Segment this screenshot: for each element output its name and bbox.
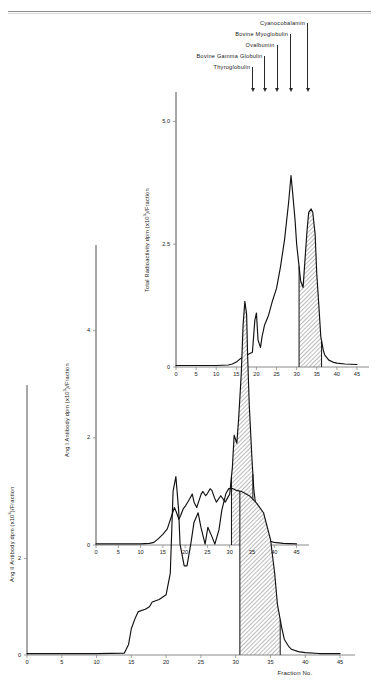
x-tick-label: 35 [262,659,278,665]
x-tick-label: 5 [188,371,204,377]
x-tick-label: 25 [199,549,215,555]
x-tick-label: 15 [123,659,139,665]
marker-label: Cyanocobalamin [157,20,305,26]
x-tick-label: 30 [289,371,305,377]
x-tick-label: 20 [248,371,264,377]
y-tick-label: 2 [70,434,90,440]
x-tick-label: 15 [228,371,244,377]
x-tick-label: 20 [177,549,193,555]
x-tick-label: 10 [133,549,149,555]
running-header [60,0,360,9]
x-tick-label: 45 [332,659,348,665]
y-tick-label: 2.5 [150,241,170,247]
chart-panel-ang-ii-antibody [27,385,347,655]
marker-label: Bovine Myoglobulin [140,31,288,37]
x-tick-label: 40 [266,549,282,555]
x-tick-label: 5 [110,549,126,555]
x-tick-label: 0 [19,659,35,665]
x-tick-label: 35 [309,371,325,377]
x-tick-label: 0 [88,549,104,555]
x-tick-label: 25 [193,659,209,665]
plot-svg [27,385,367,675]
y-tick-label: 0 [70,542,90,548]
y-tick-label: 0 [150,364,170,370]
x-tick-label: 15 [155,549,171,555]
x-tick-label: 35 [244,549,260,555]
page-rule-top [8,11,371,12]
marker-line [252,67,253,89]
x-tick-label: 40 [297,659,313,665]
marker-label: Bovine Gamma Globulin [114,53,262,59]
x-tick-label: 5 [54,659,70,665]
marker-line [290,34,291,89]
x-tick-label: 30 [222,549,238,555]
figure-canvas: ThyroglobulinBovine Gamma GlobulinOvalbu… [0,0,379,693]
x-tick-label: 20 [158,659,174,665]
y-tick-label: 4 [70,327,90,333]
y-tick-label: 0 [1,652,21,658]
elution-trace [27,477,340,654]
x-tick-label: 0 [168,371,184,377]
x-tick-label: 45 [349,371,365,377]
marker-line [307,23,308,89]
marker-line [277,45,278,89]
x-axis-label: Fraction No. [277,670,312,676]
shaded-fraction-pool [27,477,340,655]
x-tick-label: 10 [208,371,224,377]
marker-protein-annotations: ThyroglobulinBovine Gamma GlobulinOvalbu… [0,14,379,94]
y-axis-label: Total Radioactivity dpm (x103)/Fraction [142,188,150,292]
y-axis-label: Ang I Antibody dpm (x103)/Fraction [62,363,70,457]
x-tick-label: 45 [289,549,305,555]
marker-label: Ovalbumin [127,42,275,48]
x-tick-label: 30 [228,659,244,665]
x-tick-label: 25 [269,371,285,377]
y-tick-label: 5.0 [150,118,170,124]
y-axis-label: Ang II Antibody dpm (x103)/Fraction [7,487,15,582]
marker-line [264,56,265,89]
x-tick-label: 40 [329,371,345,377]
x-tick-label: 10 [89,659,105,665]
marker-label: Thyroglobulin [102,64,250,70]
